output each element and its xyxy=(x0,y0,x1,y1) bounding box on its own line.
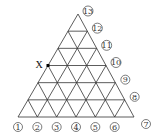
diagonal-grid-line xyxy=(37,31,87,117)
point-x-marker: X xyxy=(35,59,49,70)
label-number: 4 xyxy=(73,123,78,132)
diagonal-grid-line xyxy=(28,100,37,117)
side-label-8: 8 xyxy=(130,92,139,101)
base-label-7: 7 xyxy=(142,120,151,129)
label-number: 7 xyxy=(143,120,148,129)
diagonal-grid-line xyxy=(115,100,125,117)
label-number: 3 xyxy=(54,123,59,132)
base-label-2: 2 xyxy=(33,123,42,132)
label-number: 2 xyxy=(35,123,40,132)
label-number: 8 xyxy=(132,93,137,102)
label-number: 10 xyxy=(111,58,121,67)
label-number: 6 xyxy=(112,123,117,132)
triangle-lattice-diagram: 12345678910111213 X xyxy=(0,0,161,139)
label-number: 9 xyxy=(123,75,128,84)
side-label-13: 13 xyxy=(83,6,93,16)
base-label-6: 6 xyxy=(110,123,119,132)
label-number: 13 xyxy=(83,7,93,16)
label-number: 12 xyxy=(92,24,102,33)
side-label-10: 10 xyxy=(111,58,121,68)
side-label-12: 12 xyxy=(92,23,102,33)
base-label-1: 1 xyxy=(14,123,23,132)
side-label-11: 11 xyxy=(102,40,112,50)
base-label-5: 5 xyxy=(91,123,100,132)
label-number: 11 xyxy=(102,41,112,50)
side-label-9: 9 xyxy=(121,75,130,84)
base-label-4: 4 xyxy=(72,123,81,132)
base-label-3: 3 xyxy=(52,123,61,132)
point-x-label: X xyxy=(35,59,43,70)
point-x-dot xyxy=(47,64,50,67)
label-number: 1 xyxy=(15,123,20,132)
circled-labels: 12345678910111213 xyxy=(14,6,151,132)
label-number: 5 xyxy=(93,123,98,132)
